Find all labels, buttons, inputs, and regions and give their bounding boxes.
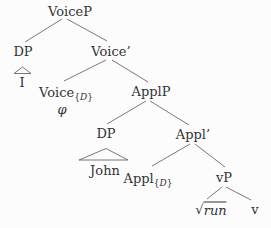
edge-voicebar-voiced [64, 60, 106, 81]
edge-voicebar-applp [112, 60, 148, 82]
tree-node-john: John [90, 164, 120, 177]
tree-node-applp: ApplP [132, 85, 171, 98]
tree-node-dp-subject: DP [13, 45, 32, 58]
edge-applp-applbar [150, 101, 189, 125]
tree-node-root-run: √run [195, 202, 226, 217]
tree-node-dp-object: DP [96, 127, 115, 140]
edge-vp-root [207, 187, 222, 199]
edge-vp-v [226, 187, 251, 200]
tree-node-phi: φ [57, 103, 66, 116]
tree-diagram: VoicePDPVoice’IVoice{D}φApplPDPAppl’John… [0, 0, 271, 228]
edge-applbar-vp [195, 144, 225, 167]
tree-node-vp: vP [216, 171, 232, 184]
edge-applp-dp [107, 101, 146, 124]
tree-node-i: I [19, 76, 24, 89]
edge-voicep-voicebar [67, 19, 107, 41]
tree-node-voicep: VoiceP [48, 5, 92, 18]
edge-voicep-dp [25, 19, 62, 42]
tree-node-appl-bar: Appl’ [176, 128, 210, 141]
tree-node-voice-d: Voice{D} [39, 86, 93, 99]
tree-node-v: v [251, 203, 258, 216]
tree-edges-layer [0, 0, 271, 228]
roof-john [79, 149, 128, 161]
edge-applbar-appld [152, 144, 190, 166]
tree-node-voice-bar: Voice’ [91, 45, 130, 58]
roof-i [14, 67, 31, 74]
tree-node-appl-d: Appl{D} [124, 172, 173, 185]
